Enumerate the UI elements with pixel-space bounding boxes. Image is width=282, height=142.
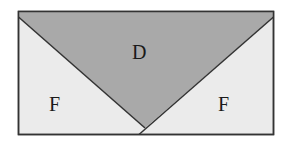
label-f-right: F <box>218 93 229 115</box>
label-d: D <box>132 41 146 63</box>
diagram: D F F <box>0 0 282 142</box>
label-f-left: F <box>49 93 60 115</box>
